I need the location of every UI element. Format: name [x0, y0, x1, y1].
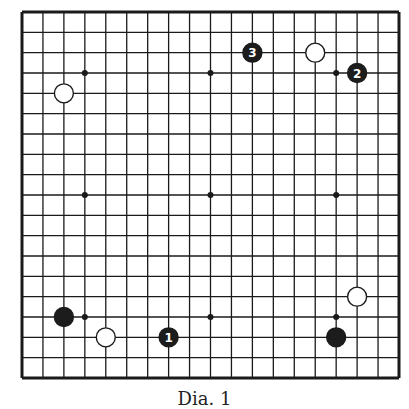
- star-point-icon: [333, 70, 339, 76]
- star-point-icon: [333, 314, 339, 320]
- black-stone: 2: [348, 64, 367, 83]
- star-point-icon: [82, 314, 88, 320]
- black-stone: [54, 308, 73, 327]
- move-number: 3: [248, 46, 256, 60]
- star-point-icon: [333, 192, 339, 198]
- black-stone: [327, 328, 346, 347]
- black-stone: 1: [159, 328, 178, 347]
- white-stone: [54, 84, 73, 103]
- move-number: 1: [164, 331, 172, 345]
- star-point-icon: [82, 192, 88, 198]
- black-stone: 3: [243, 43, 262, 62]
- star-point-icon: [208, 314, 214, 320]
- star-point-icon: [82, 70, 88, 76]
- move-number: 2: [353, 67, 361, 81]
- white-stone: [348, 287, 367, 306]
- white-stone: [306, 43, 325, 62]
- diagram-caption: Dia. 1: [0, 388, 409, 409]
- star-point-icon: [208, 70, 214, 76]
- white-stone: [96, 328, 115, 347]
- star-point-icon: [208, 192, 214, 198]
